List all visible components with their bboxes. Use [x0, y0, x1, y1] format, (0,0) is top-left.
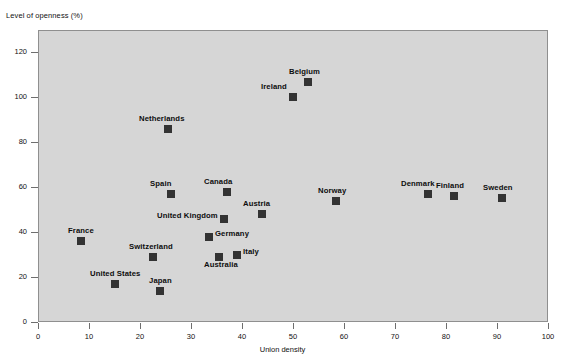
y-tick-label: 60 — [3, 182, 27, 191]
data-point-marker — [289, 93, 297, 101]
y-tick-line — [31, 142, 38, 143]
data-point-label: Canada — [204, 177, 232, 186]
y-tick-line — [31, 277, 38, 278]
x-tick-line — [242, 323, 243, 329]
data-point-marker — [77, 237, 85, 245]
data-point-marker — [424, 190, 432, 198]
x-tick-line — [140, 323, 141, 329]
data-point-marker — [164, 125, 172, 133]
y-tick-label: 80 — [3, 137, 27, 146]
x-tick-line — [89, 323, 90, 329]
data-point-label: United Kingdom — [157, 211, 218, 220]
data-point-label: Ireland — [261, 82, 287, 91]
data-point-label: Italy — [243, 247, 259, 256]
x-tick-label: 80 — [434, 332, 458, 341]
data-point-label: Netherlands — [139, 114, 185, 123]
x-tick-line — [38, 323, 39, 329]
x-tick-label: 10 — [77, 332, 101, 341]
x-tick-line — [446, 323, 447, 329]
data-point-marker — [498, 194, 506, 202]
y-tick-label: 0 — [3, 317, 27, 326]
data-point-marker — [156, 287, 164, 295]
y-tick-label: 120 — [3, 47, 27, 56]
y-tick-line — [31, 232, 38, 233]
data-point-label: Australia — [204, 260, 238, 269]
y-tick-label: 40 — [3, 227, 27, 236]
x-axis-title: Union density — [0, 345, 565, 354]
data-point-marker — [450, 192, 458, 200]
x-tick-label: 100 — [536, 332, 560, 341]
x-tick-label: 70 — [383, 332, 407, 341]
data-point-label: Germany — [215, 229, 249, 238]
x-tick-line — [548, 323, 549, 329]
x-tick-label: 20 — [128, 332, 152, 341]
x-tick-line — [191, 323, 192, 329]
data-point-label: France — [68, 226, 94, 235]
x-tick-line — [293, 323, 294, 329]
scatter-chart: Level of openness (%) 020406080100120 01… — [0, 0, 565, 363]
data-point-marker — [304, 78, 312, 86]
data-point-marker — [149, 253, 157, 261]
x-tick-label: 60 — [332, 332, 356, 341]
data-point-marker — [111, 280, 119, 288]
data-point-label: Norway — [318, 186, 346, 195]
x-tick-label: 90 — [485, 332, 509, 341]
y-tick-line — [31, 322, 38, 323]
data-point-marker — [233, 251, 241, 259]
x-tick-label: 50 — [281, 332, 305, 341]
x-tick-label: 0 — [26, 332, 50, 341]
data-point-label: United States — [90, 269, 140, 278]
y-tick-label: 20 — [3, 272, 27, 281]
x-tick-line — [395, 323, 396, 329]
data-point-label: Japan — [149, 276, 172, 285]
data-point-label: Sweden — [483, 183, 513, 192]
data-point-marker — [332, 197, 340, 205]
x-tick-label: 30 — [179, 332, 203, 341]
x-tick-line — [497, 323, 498, 329]
data-point-marker — [220, 215, 228, 223]
y-tick-label: 100 — [3, 92, 27, 101]
y-tick-line — [31, 52, 38, 53]
data-point-marker — [223, 188, 231, 196]
data-point-label: Finland — [436, 181, 464, 190]
data-point-label: Switzerland — [129, 242, 173, 251]
data-point-marker — [258, 210, 266, 218]
data-point-marker — [205, 233, 213, 241]
data-point-label: Denmark — [401, 179, 435, 188]
y-axis-title: Level of openness (%) — [6, 11, 83, 20]
y-tick-line — [31, 187, 38, 188]
x-tick-line — [344, 323, 345, 329]
y-tick-line — [31, 97, 38, 98]
data-point-label: Belgium — [289, 67, 320, 76]
data-point-marker — [167, 190, 175, 198]
x-tick-label: 40 — [230, 332, 254, 341]
data-point-label: Austria — [243, 199, 270, 208]
data-point-label: Spain — [150, 179, 171, 188]
